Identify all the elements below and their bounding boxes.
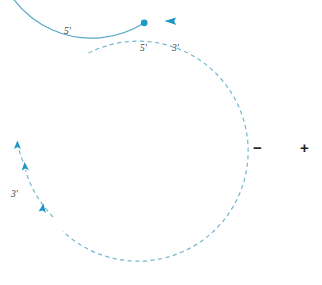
label-outer-three-prime: 3' [11,190,18,200]
minus-strand-arc [0,0,190,38]
diagram-canvas: 5' 5' 3' 3' − + [0,0,322,285]
dashed-arrowhead-mid-icon [22,162,29,171]
dna-circle-figure [0,0,322,285]
label-inner-five-prime: 5' [140,44,147,54]
minus-strand-solid [0,0,190,38]
dashed-arrowhead-top-icon [14,141,21,150]
plus-strand-arc [63,41,248,261]
solid-arrowhead-icon [165,18,177,25]
origin-dot-icon [141,19,148,26]
minus-strand-arrowhead [165,18,177,25]
plus-strand-dashed [18,41,248,261]
minus-polarity-sign: − [253,140,262,155]
label-outer-five-prime: 5' [64,27,71,37]
plus-polarity-sign: + [300,140,309,155]
plus-strand-tail-lower [26,170,54,217]
label-inner-three-prime: 3' [172,44,179,54]
